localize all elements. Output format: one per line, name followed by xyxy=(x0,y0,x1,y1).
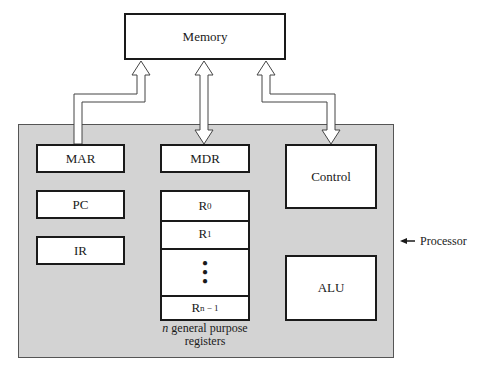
caption-line2: registers xyxy=(185,334,226,348)
register-r1-sub: 1 xyxy=(207,229,212,239)
mdr-register: MDR xyxy=(160,144,250,173)
caption-line1: general purpose xyxy=(168,321,247,335)
register-r0: R0 xyxy=(162,192,248,222)
ir-label: IR xyxy=(74,243,87,259)
register-file-caption: n general purpose registers xyxy=(150,322,260,348)
alu-label: ALU xyxy=(318,280,345,296)
register-rn-base: R xyxy=(191,300,200,316)
control-unit: Control xyxy=(285,144,377,209)
general-purpose-register-file: R0 R1 ● ● ● Rn − 1 xyxy=(160,190,250,321)
register-r0-sub: 0 xyxy=(207,201,212,211)
left-arrow-icon xyxy=(400,238,407,244)
register-r1: R1 xyxy=(162,220,248,250)
ir-register: IR xyxy=(36,236,125,265)
mar-register: MAR xyxy=(36,144,125,173)
vertical-ellipsis-icon: ● xyxy=(202,276,208,285)
mdr-memory-arrow xyxy=(195,61,213,144)
register-r1-base: R xyxy=(198,226,207,242)
mar-to-memory-arrow xyxy=(74,61,150,144)
mar-label: MAR xyxy=(66,151,96,167)
processor-label: Processor xyxy=(420,234,467,249)
mdr-label: MDR xyxy=(190,151,220,167)
pc-register: PC xyxy=(36,190,125,219)
control-memory-arrow xyxy=(257,61,340,144)
control-label: Control xyxy=(311,169,351,185)
register-rn-1: Rn − 1 xyxy=(162,295,248,321)
register-rn-sub: n − 1 xyxy=(200,303,219,313)
pc-label: PC xyxy=(73,197,89,213)
register-r0-base: R xyxy=(198,198,207,214)
alu-unit: ALU xyxy=(285,255,377,321)
register-ellipsis: ● ● ● xyxy=(162,248,248,297)
